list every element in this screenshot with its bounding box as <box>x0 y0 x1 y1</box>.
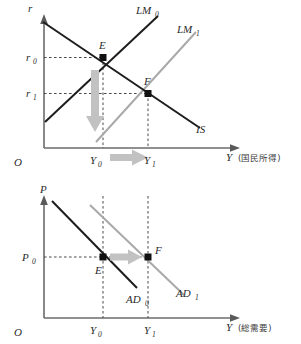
xtick-label-y0-top: Y <box>90 154 98 166</box>
point-marker-e-top <box>100 54 107 61</box>
curve-ad1 <box>90 205 184 295</box>
figure-root: r Y (国民所得) O LM 0 LM 1 IS E F r 0 r 1 Y … <box>0 0 301 344</box>
bottom-y-axis-label: P <box>39 183 47 195</box>
ytick-label-p0: P <box>21 251 29 263</box>
xtick-label-y1-top: Y <box>144 154 152 166</box>
curve-label-lm0: LM <box>135 4 152 16</box>
xtick-label-y0-top-sub: 0 <box>98 160 102 169</box>
top-y-axis-label: r <box>28 2 33 14</box>
curve-label-ad0-sub: 0 <box>145 299 149 308</box>
ytick-label-r1: r <box>26 87 31 99</box>
xtick-label-y1-bottom: Y <box>144 324 152 336</box>
bottom-x-axis-label: Y <box>226 321 234 333</box>
curve-label-ad1-sub: 1 <box>195 293 199 302</box>
is-lm-panel: r Y (国民所得) O LM 0 LM 1 IS E F r 0 r 1 Y … <box>14 2 281 169</box>
xtick-label-y1-bottom-sub: 1 <box>152 330 156 339</box>
demand-shift-arrow <box>110 250 142 265</box>
curve-is <box>43 22 200 128</box>
curve-lm0 <box>45 16 158 122</box>
bottom-y-axis-arrowhead <box>40 195 48 205</box>
ytick-label-r0-sub: 0 <box>33 57 37 66</box>
bottom-origin-label: O <box>14 326 22 338</box>
ytick-label-r1-sub: 1 <box>33 93 37 102</box>
point-label-f-bottom: F <box>154 244 162 256</box>
curve-lm1 <box>96 32 196 142</box>
point-marker-f-bottom <box>145 254 152 261</box>
point-label-e-top: E <box>98 39 106 51</box>
curve-label-ad0: AD <box>125 293 141 305</box>
ytick-label-r0: r <box>26 51 31 63</box>
point-label-f-top: F <box>143 75 151 87</box>
xtick-label-y0-bottom-sub: 0 <box>98 330 102 339</box>
ad-panel: P Y (総需要) O AD 0 AD 1 E F P 0 Y 0 Y 1 <box>14 183 272 339</box>
bottom-x-axis-note: (総需要) <box>238 323 272 333</box>
xtick-label-y0-bottom: Y <box>90 324 98 336</box>
is-lm-ad-diagram: r Y (国民所得) O LM 0 LM 1 IS E F r 0 r 1 Y … <box>0 0 301 344</box>
top-x-axis-note: (国民所得) <box>238 153 281 163</box>
curve-label-lm1: LM <box>176 23 193 35</box>
curve-label-lm1-sub: 1 <box>196 29 200 38</box>
ytick-label-p0-sub: 0 <box>32 257 36 266</box>
top-x-axis-label: Y <box>226 151 234 163</box>
xtick-label-y1-top-sub: 1 <box>152 160 156 169</box>
point-label-e-bottom: E <box>94 264 102 276</box>
curve-label-lm0-sub: 0 <box>155 10 159 19</box>
curve-label-ad1: AD <box>175 287 191 299</box>
top-origin-label: O <box>14 156 22 168</box>
interest-rate-down-arrow <box>86 70 104 132</box>
point-marker-e-bottom <box>100 254 107 261</box>
point-marker-f-top <box>145 90 152 97</box>
income-increase-arrow <box>110 150 148 166</box>
curve-label-is: IS <box>195 123 206 135</box>
